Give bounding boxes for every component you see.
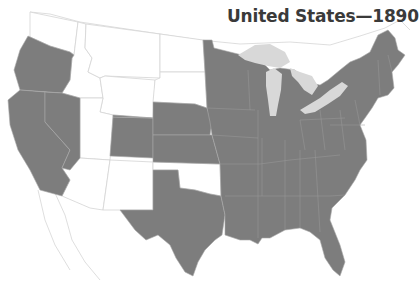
region-montana	[85, 24, 160, 78]
us-1890-map: United States—1890	[0, 0, 420, 283]
region-colorado	[110, 117, 153, 158]
region-north-dakota	[160, 34, 205, 72]
region-kansas	[153, 135, 220, 164]
region-eastern-states	[203, 30, 405, 276]
region-new-mexico	[103, 160, 153, 210]
map-title: United States—1890	[227, 6, 419, 26]
region-wyoming	[100, 76, 155, 118]
